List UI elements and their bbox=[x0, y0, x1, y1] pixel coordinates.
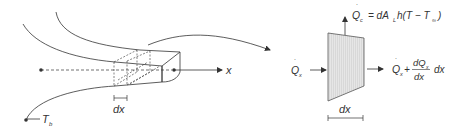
svg-text:h(T − T: h(T − T bbox=[397, 10, 430, 21]
svg-text:= dA: = dA bbox=[368, 10, 389, 21]
svg-text:∞: ∞ bbox=[432, 17, 436, 23]
right-dx-dimension bbox=[328, 115, 363, 121]
x-axis-label: x bbox=[225, 64, 232, 76]
svg-text:x: x bbox=[399, 71, 403, 77]
svg-text:L: L bbox=[393, 17, 396, 23]
base-temperature-sub: b bbox=[49, 121, 53, 127]
fin-diagram: x dx T b Q ˙ c = dA L h(T − T ∞ ) bbox=[0, 0, 468, 132]
outflow-formula: Q ˙ x + dQ x dx dx bbox=[392, 57, 446, 82]
svg-text:dx: dx bbox=[434, 64, 446, 75]
fin-drawing: x dx T b bbox=[23, 12, 232, 127]
svg-text:c: c bbox=[360, 17, 363, 23]
differential-element bbox=[328, 33, 364, 101]
svg-text:dx: dx bbox=[414, 71, 425, 82]
centerline-start-dot bbox=[39, 68, 43, 72]
svg-text:˙: ˙ bbox=[294, 58, 297, 67]
left-dx-label: dx bbox=[113, 103, 125, 115]
svg-text:+: + bbox=[404, 64, 410, 75]
svg-text:˙: ˙ bbox=[395, 57, 398, 66]
inflow-label: Q ˙ x bbox=[291, 58, 302, 78]
left-dx-dimension bbox=[114, 95, 127, 101]
element-drawing: Q ˙ c = dA L h(T − T ∞ ) Q ˙ x Q ˙ x + d… bbox=[291, 3, 446, 121]
element-slice-dashed bbox=[114, 50, 160, 86]
convection-formula: Q ˙ c = dA L h(T − T ∞ ) bbox=[352, 3, 441, 23]
fin-top-inner-curve bbox=[23, 24, 162, 66]
svg-text:dQ: dQ bbox=[413, 57, 426, 68]
fin-tip-face bbox=[162, 52, 180, 82]
svg-text:˙: ˙ bbox=[356, 3, 359, 12]
svg-text:): ) bbox=[437, 10, 441, 21]
connector-arrow bbox=[148, 35, 270, 50]
fin-top-outer-curve bbox=[56, 12, 180, 52]
svg-text:x: x bbox=[425, 64, 429, 70]
right-dx-label: dx bbox=[339, 103, 351, 115]
svg-text:x: x bbox=[298, 72, 302, 78]
